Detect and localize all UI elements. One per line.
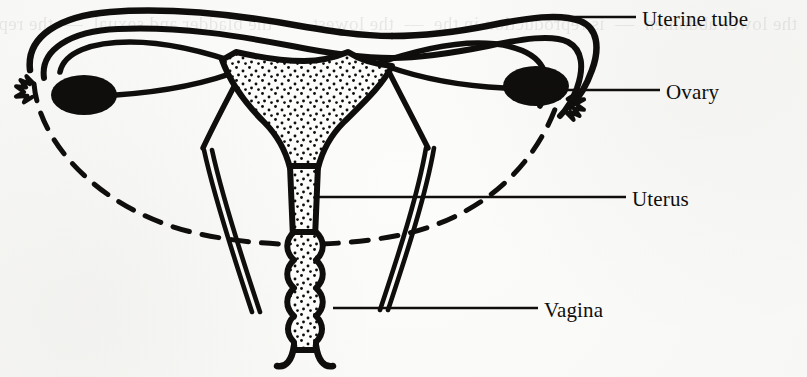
- label-vagina: Vagina: [544, 300, 603, 321]
- cervix: [290, 166, 318, 238]
- label-uterus: Uterus: [632, 189, 689, 210]
- ovary-left: [51, 75, 117, 115]
- uterus-body: [222, 52, 392, 168]
- label-uterine-tube: Uterine tube: [642, 9, 748, 30]
- figure-page: the lower abdomen — is reproduction in t…: [0, 0, 807, 377]
- ovarian-ligament-right: [386, 66, 504, 148]
- ovarian-ligament-left: [116, 69, 243, 148]
- ovary-right: [503, 66, 569, 106]
- vagina-canal: [287, 232, 323, 350]
- label-ovary: Ovary: [666, 82, 719, 103]
